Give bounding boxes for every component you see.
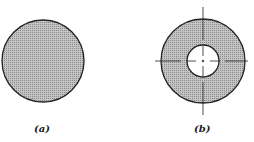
figure-canvas [0, 0, 254, 142]
panel-a-label: (a) [34, 123, 50, 134]
panel-a-solid-circle [2, 20, 84, 102]
panel-b-annulus [155, 7, 248, 115]
panel-b-label: (b) [194, 123, 210, 134]
